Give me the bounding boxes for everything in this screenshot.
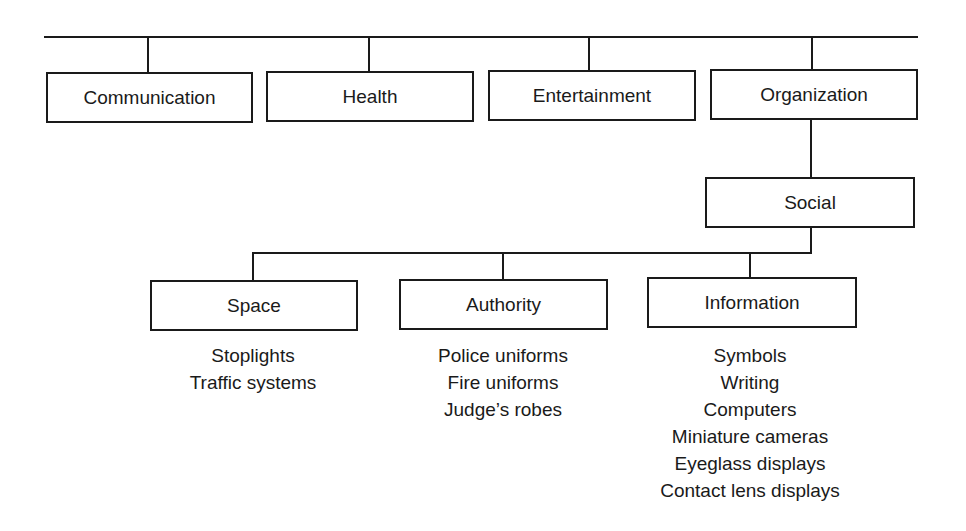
example-item: Traffic systems — [123, 369, 383, 396]
example-item: Symbols — [620, 342, 880, 369]
example-item: Stoplights — [123, 342, 383, 369]
node-organization: Organization — [710, 69, 918, 120]
top-connector-line — [44, 36, 918, 38]
node-label: Entertainment — [533, 85, 651, 107]
node-label: Information — [704, 292, 799, 314]
authority-examples: Police uniforms Fire uniforms Judge’s ro… — [373, 342, 633, 423]
connector-entertainment — [588, 36, 590, 70]
node-label: Organization — [760, 84, 868, 106]
example-item: Fire uniforms — [373, 369, 633, 396]
node-communication: Communication — [46, 72, 253, 123]
node-entertainment: Entertainment — [488, 70, 696, 121]
example-item: Eyeglass displays — [620, 450, 880, 477]
node-label: Space — [227, 295, 281, 317]
node-label: Health — [343, 86, 398, 108]
example-item: Miniature cameras — [620, 423, 880, 450]
space-examples: Stoplights Traffic systems — [123, 342, 383, 396]
connector-health — [368, 36, 370, 71]
example-item: Contact lens displays — [620, 477, 880, 504]
node-label: Communication — [84, 87, 216, 109]
node-label: Authority — [466, 294, 541, 316]
example-item: Police uniforms — [373, 342, 633, 369]
example-item: Computers — [620, 396, 880, 423]
connector-information — [749, 252, 751, 278]
node-social: Social — [705, 177, 915, 228]
connector-space — [252, 252, 254, 280]
node-label: Social — [784, 192, 836, 214]
connector-organization — [811, 36, 813, 69]
node-health: Health — [266, 71, 474, 122]
node-information: Information — [647, 277, 857, 328]
information-examples: Symbols Writing Computers Miniature came… — [620, 342, 880, 504]
node-space: Space — [150, 280, 358, 331]
example-item: Judge’s robes — [373, 396, 633, 423]
node-authority: Authority — [399, 279, 608, 330]
connector-organization-social — [810, 120, 812, 178]
connector-communication — [147, 36, 149, 72]
mid-connector-line — [252, 252, 812, 254]
example-item: Writing — [620, 369, 880, 396]
connector-social-down — [810, 228, 812, 254]
connector-authority — [502, 252, 504, 279]
